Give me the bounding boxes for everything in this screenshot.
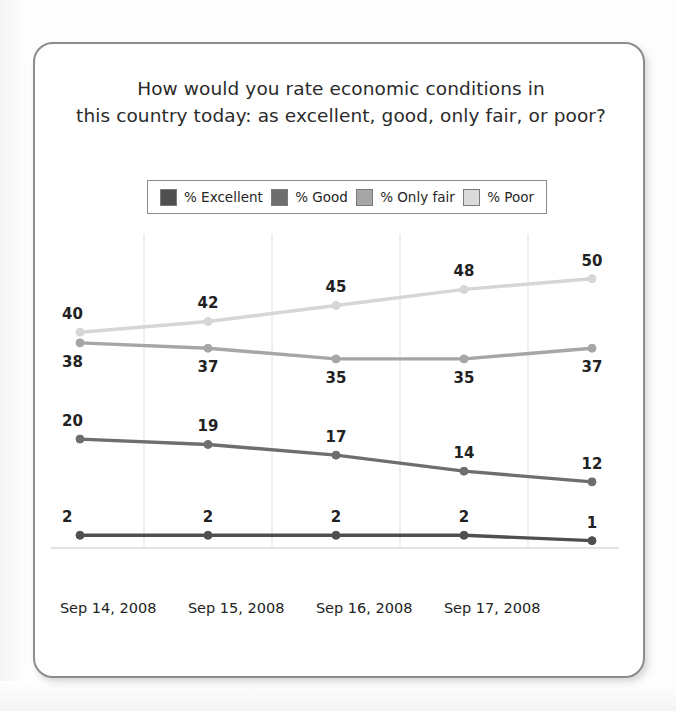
screenshot-page: How would you rate economic conditions i… — [0, 0, 676, 711]
data-point[interactable] — [204, 317, 212, 325]
legend-label-poor: % Poor — [487, 189, 534, 205]
legend-item-poor[interactable]: % Poor — [463, 189, 534, 206]
data-point[interactable] — [460, 531, 468, 539]
data-point-value-label: 37 — [582, 358, 603, 376]
chart-title-line-2: this country today: as excellent, good, … — [35, 102, 647, 129]
legend-item-excellent[interactable]: % Excellent — [160, 189, 263, 206]
data-point-value-label: 48 — [454, 262, 475, 280]
legend-label-only-fair: % Only fair — [380, 189, 455, 205]
data-point[interactable] — [460, 355, 468, 363]
data-point-value-label: 45 — [326, 278, 347, 296]
data-point[interactable] — [76, 339, 84, 347]
data-point-value-label: 35 — [326, 369, 347, 387]
chart-title-line-1: How would you rate economic conditions i… — [35, 75, 647, 102]
data-point[interactable] — [460, 285, 468, 293]
data-point[interactable] — [332, 301, 340, 309]
data-point[interactable] — [76, 531, 84, 539]
data-point-value-label: 1 — [587, 514, 597, 532]
chart-value-labels: 40424548503837353537201917141222221 — [62, 252, 602, 532]
x-axis-tick-label: Sep 16, 2008 — [316, 600, 413, 616]
chart-series-lines — [80, 279, 592, 541]
page-edge-shading-left — [0, 0, 34, 711]
data-point[interactable] — [332, 355, 340, 363]
data-point[interactable] — [204, 440, 212, 448]
data-point[interactable] — [76, 435, 84, 443]
x-axis-tick-label: Sep 17, 2008 — [444, 600, 541, 616]
chart-title: How would you rate economic conditions i… — [35, 75, 647, 129]
data-point-value-label: 19 — [198, 417, 219, 435]
data-point-value-label: 38 — [62, 353, 83, 371]
data-point[interactable] — [204, 344, 212, 352]
data-point[interactable] — [460, 467, 468, 475]
data-point-value-label: 2 — [331, 508, 341, 526]
chart-x-axis-labels: Sep 14, 2008Sep 15, 2008Sep 16, 2008Sep … — [35, 600, 647, 628]
data-point[interactable] — [588, 537, 596, 545]
data-point-value-label: 50 — [582, 252, 603, 270]
data-point-value-label: 12 — [582, 455, 603, 473]
legend-item-only-fair[interactable]: % Only fair — [356, 189, 455, 206]
data-point-value-label: 20 — [62, 412, 83, 430]
legend-swatch-poor-icon — [463, 189, 480, 206]
legend-swatch-only-fair-icon — [356, 189, 373, 206]
data-point-value-label: 2 — [203, 508, 213, 526]
data-point-value-label: 17 — [326, 428, 347, 446]
page-edge-shading-bottom — [0, 681, 676, 711]
data-point[interactable] — [76, 328, 84, 336]
chart-series-points — [76, 275, 596, 545]
data-point[interactable] — [588, 478, 596, 486]
legend-label-good: % Good — [295, 189, 348, 205]
data-point-value-label: 2 — [62, 508, 72, 526]
legend-swatch-good-icon — [271, 189, 288, 206]
data-point-value-label: 40 — [62, 305, 83, 323]
legend-item-good[interactable]: % Good — [271, 189, 348, 206]
x-axis-tick-label: Sep 15, 2008 — [188, 600, 285, 616]
data-point-value-label: 14 — [454, 444, 475, 462]
data-point-value-label: 42 — [198, 294, 219, 312]
chart-svg: 40424548503837353537201917141222221 — [35, 234, 647, 604]
legend-label-excellent: % Excellent — [184, 189, 263, 205]
x-axis-tick-label: Sep 14, 2008 — [60, 600, 157, 616]
legend-swatch-excellent-icon — [160, 189, 177, 206]
chart-card: How would you rate economic conditions i… — [33, 42, 645, 678]
data-point-value-label: 37 — [198, 358, 219, 376]
line-chart-plot-area: 40424548503837353537201917141222221 — [35, 234, 647, 604]
data-point[interactable] — [588, 275, 596, 283]
data-point[interactable] — [204, 531, 212, 539]
data-point-value-label: 2 — [459, 508, 469, 526]
data-point[interactable] — [332, 451, 340, 459]
chart-legend: % Excellent % Good % Only fair % Poor — [147, 180, 547, 214]
data-point-value-label: 35 — [454, 369, 475, 387]
data-point[interactable] — [332, 531, 340, 539]
data-point[interactable] — [588, 344, 596, 352]
